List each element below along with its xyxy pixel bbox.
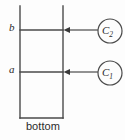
- node-label-c2: C2: [102, 25, 113, 39]
- level-label-b: b: [9, 22, 15, 33]
- bottom-caption: bottom: [0, 120, 86, 132]
- node-subscript-c1: 1: [109, 72, 113, 81]
- node-label-c1: C1: [102, 67, 113, 81]
- node-subscript-c2: 2: [109, 30, 113, 39]
- arrow-head-c1-icon: [64, 69, 71, 75]
- level-label-a: a: [9, 64, 15, 75]
- diagram-canvas: b a C2 C1 bottom: [0, 0, 125, 140]
- arrow-head-c2-icon: [64, 27, 71, 33]
